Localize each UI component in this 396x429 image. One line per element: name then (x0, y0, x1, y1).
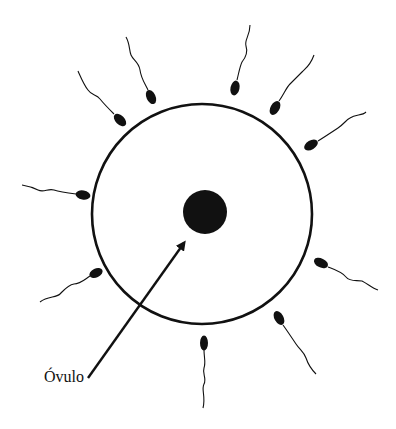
nucleus (183, 190, 227, 234)
sperm-icon (271, 309, 316, 374)
ovum-label: Óvulo (44, 368, 84, 386)
diagram-canvas: Óvulo (0, 0, 396, 429)
sperm-icon (200, 336, 208, 409)
sperm-icon (40, 266, 104, 302)
sperm-icon (126, 37, 158, 106)
sperm-icon (22, 185, 91, 201)
sperm-icon (78, 71, 128, 128)
sperm-icon (312, 256, 378, 290)
ovum-diagram (0, 0, 396, 429)
sperm-icon (267, 55, 314, 117)
sperm-icon (229, 25, 250, 96)
sperm-icon (302, 112, 366, 153)
